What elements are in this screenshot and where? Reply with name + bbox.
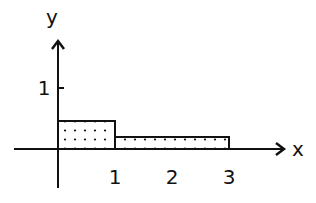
y-tick-label-1: 1 [38, 76, 51, 100]
y-axis-label: y [46, 5, 58, 29]
bar-1-to-3 [115, 137, 229, 149]
chart-canvas: y x 1 1 2 3 [0, 0, 316, 203]
x-tick-label-3: 3 [223, 165, 236, 189]
x-tick-label-1: 1 [109, 165, 122, 189]
bar-0-to-1 [58, 121, 115, 149]
x-axis-label: x [292, 137, 304, 161]
x-tick-label-2: 2 [166, 165, 179, 189]
